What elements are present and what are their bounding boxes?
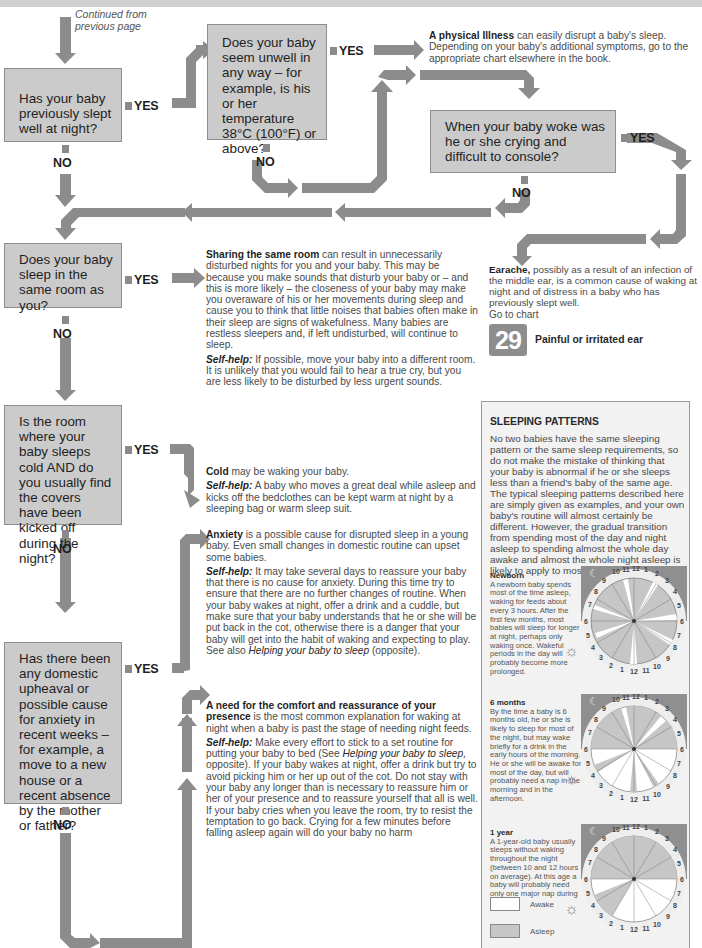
- outcome-anxiety: Anxiety is a possible cause for disrupte…: [206, 529, 478, 659]
- svg-text:5: 5: [677, 730, 681, 737]
- question-box-domestic-upheaval: Has there been any domestic upheaval or …: [4, 642, 122, 804]
- question-box-room-cold: Is the room where your baby sleeps cold …: [4, 405, 122, 525]
- self-help-body: It may take several days to reassure you…: [206, 566, 476, 656]
- pattern-text: A newborn baby spends most of the time a…: [490, 581, 582, 677]
- svg-text:3: 3: [599, 912, 603, 919]
- svg-text:9: 9: [666, 783, 670, 790]
- svg-text:8: 8: [673, 772, 677, 779]
- svg-text:6: 6: [680, 618, 684, 625]
- cross-reference-helping-sleep[interactable]: Helping your baby to sleep: [248, 645, 369, 656]
- outcome-heading: Sharing the same room: [206, 249, 319, 260]
- svg-text:6: 6: [584, 746, 588, 753]
- svg-text:10: 10: [653, 921, 661, 928]
- svg-text:2: 2: [655, 698, 659, 705]
- svg-text:12: 12: [630, 926, 638, 932]
- legend-label: Asleep: [530, 927, 554, 936]
- svg-text:7: 7: [588, 729, 592, 736]
- svg-text:3: 3: [599, 782, 603, 789]
- svg-text:7: 7: [588, 601, 592, 608]
- svg-text:5: 5: [586, 890, 590, 897]
- svg-text:9: 9: [602, 577, 606, 584]
- svg-text:1: 1: [620, 924, 624, 931]
- outcome-earache: Earache, possibly as a result of an infe…: [489, 264, 701, 308]
- svg-text:8: 8: [594, 588, 598, 595]
- svg-text:9: 9: [602, 705, 606, 712]
- sleep-clock-1-year: 6789 1011121 2345 6789 1011121 2345 ☾: [581, 822, 687, 932]
- moon-icon: ☾: [589, 695, 599, 707]
- outcome-heading: Earache,: [489, 264, 530, 275]
- svg-text:8: 8: [673, 644, 677, 651]
- svg-text:2: 2: [609, 790, 613, 797]
- panel-intro: No two babies have the same sleeping pat…: [490, 433, 686, 576]
- svg-text:3: 3: [665, 835, 669, 842]
- svg-text:12: 12: [632, 823, 640, 830]
- self-help-end: opposite). If your baby wakes at night, …: [206, 759, 478, 838]
- svg-text:3: 3: [665, 577, 669, 584]
- outcome-heading: Anxiety: [206, 529, 243, 540]
- moon-icon: ☾: [589, 567, 599, 579]
- yes-label-q6: YES: [125, 662, 158, 676]
- legend-awake: Awake: [490, 897, 554, 911]
- chart-number-badge[interactable]: 29: [489, 324, 527, 356]
- svg-text:7: 7: [677, 890, 681, 897]
- self-help-label: Self-help:: [206, 480, 252, 491]
- svg-text:4: 4: [673, 716, 677, 723]
- svg-text:5: 5: [677, 860, 681, 867]
- self-help-label: Self-help:: [206, 737, 252, 748]
- question-text: Does your baby sleep in the same room as…: [19, 252, 113, 313]
- svg-text:4: 4: [591, 902, 595, 909]
- outcome-body: can result in unnecessarily disturbed ni…: [206, 249, 478, 350]
- no-marker-q1: [62, 145, 69, 153]
- svg-text:6: 6: [584, 876, 588, 883]
- svg-text:12: 12: [630, 668, 638, 674]
- question-box-previously-slept-well: Has your baby previously slept well at n…: [4, 68, 122, 142]
- outcome-body: is a possible cause for disrupted sleep …: [206, 529, 468, 563]
- svg-text:5: 5: [586, 760, 590, 767]
- yes-label-q3: YES: [621, 131, 654, 145]
- sun-icon: ☼: [564, 642, 579, 660]
- svg-text:1: 1: [620, 794, 624, 801]
- sleep-clock-6-months: 6789 1011121 2345 6789 1011121 2345 ☾: [581, 692, 687, 802]
- svg-text:3: 3: [665, 705, 669, 712]
- moon-icon: ☾: [589, 825, 599, 837]
- svg-text:2: 2: [609, 662, 613, 669]
- outcome-heading: Cold: [206, 466, 229, 477]
- svg-text:12: 12: [632, 565, 640, 572]
- svg-text:2: 2: [655, 570, 659, 577]
- svg-text:1: 1: [644, 694, 648, 701]
- no-label-q5: NO: [53, 542, 72, 556]
- svg-text:11: 11: [642, 795, 650, 802]
- outcome-heading: A physical Illness: [429, 30, 514, 41]
- panel-title: SLEEPING PATTERNS: [490, 416, 599, 427]
- svg-text:5: 5: [586, 632, 590, 639]
- no-marker-q5: [62, 530, 69, 538]
- cross-reference-helping-sleep[interactable]: Helping your baby to sleep,: [343, 748, 466, 759]
- svg-text:1: 1: [644, 824, 648, 831]
- svg-text:7: 7: [588, 859, 592, 866]
- svg-text:6: 6: [680, 876, 684, 883]
- no-marker-q3: [521, 176, 528, 184]
- svg-text:11: 11: [642, 925, 650, 932]
- legend-swatch-awake: [490, 897, 520, 911]
- svg-text:8: 8: [594, 846, 598, 853]
- svg-text:11: 11: [622, 566, 630, 573]
- svg-text:4: 4: [673, 846, 677, 853]
- no-label-q1: NO: [53, 156, 72, 170]
- svg-text:7: 7: [677, 760, 681, 767]
- svg-text:2: 2: [609, 920, 613, 927]
- svg-text:1: 1: [620, 666, 624, 673]
- svg-text:6: 6: [680, 746, 684, 753]
- no-label-q4: NO: [53, 327, 72, 341]
- outcome-physical-illness: A physical Illness can easily disrupt a …: [429, 30, 701, 64]
- yes-label-q1: YES: [125, 99, 158, 113]
- chart-link-painful-ear[interactable]: Painful or irritated ear: [535, 334, 643, 345]
- svg-text:12: 12: [632, 693, 640, 700]
- question-text: Has there been any domestic upheaval or …: [19, 651, 111, 833]
- svg-text:11: 11: [622, 694, 630, 701]
- sleeping-patterns-panel: SLEEPING PATTERNS No two babies have the…: [481, 401, 690, 948]
- no-label-q6: NO: [53, 818, 72, 832]
- legend-swatch-asleep: [490, 924, 520, 938]
- question-box-crying-difficult: When your baby woke was he or she crying…: [430, 110, 616, 173]
- svg-text:4: 4: [591, 644, 595, 651]
- question-box-same-room: Does your baby sleep in the same room as…: [4, 243, 122, 308]
